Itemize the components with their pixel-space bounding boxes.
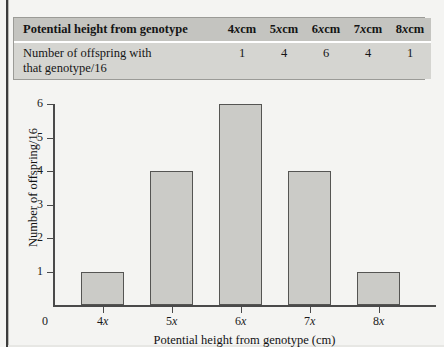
- y-tick-1: [47, 272, 53, 273]
- table-cell-4: 1: [389, 42, 431, 79]
- bar-6x: [219, 104, 262, 305]
- table-body-row: Number of offspring with that genotype/1…: [14, 42, 431, 79]
- col-suffix-4: cm: [408, 22, 424, 36]
- x-label-italic-1: x: [172, 314, 177, 328]
- figure-page: Potential height from genotype 4xcm 5xcm…: [0, 0, 444, 359]
- col-suffix-3: cm: [366, 22, 382, 36]
- genotype-data-table: Potential height from genotype 4xcm 5xcm…: [13, 17, 425, 80]
- table-header-col-4: 8xcm: [389, 18, 431, 42]
- table-cell-2: 6: [305, 42, 347, 79]
- y-tick-4: [47, 171, 53, 172]
- y-tick-label-4: 4: [17, 163, 43, 178]
- y-tick-label-6: 6: [17, 96, 43, 111]
- page-base-margin: [0, 347, 444, 359]
- x-label-italic-4: x: [379, 314, 384, 328]
- x-tick-8x: [379, 307, 380, 313]
- y-tick-label-1: 1: [17, 264, 43, 279]
- x-tick-4x: [103, 307, 104, 313]
- table-header-col-0: 4xcm: [221, 18, 263, 42]
- y-tick-5: [47, 138, 53, 139]
- col-suffix-2: cm: [324, 22, 340, 36]
- origin-label: 0: [35, 314, 55, 329]
- table-header-row: Potential height from genotype 4xcm 5xcm…: [14, 18, 431, 42]
- table-header-col-2: 6xcm: [305, 18, 347, 42]
- bar-8x: [357, 272, 400, 306]
- bar-4x: [81, 272, 124, 306]
- x-tick-5x: [172, 307, 173, 313]
- y-tick-6: [47, 104, 53, 105]
- page-left-rule-highlight: [8, 0, 9, 347]
- x-tick-6x: [241, 307, 242, 313]
- y-tick-2: [47, 238, 53, 239]
- x-tick-7x: [310, 307, 311, 313]
- x-label-italic-3: x: [310, 314, 315, 328]
- table: Potential height from genotype 4xcm 5xcm…: [14, 18, 431, 79]
- bar-5x: [150, 171, 193, 305]
- x-tick-label-7x: 7x: [285, 314, 335, 329]
- bar-chart: Number of offspring/16 123456 4x5x6x7x8x…: [13, 92, 425, 342]
- x-label-italic-2: x: [241, 314, 246, 328]
- y-axis-line: [53, 104, 55, 307]
- table-cell-1: 4: [263, 42, 305, 79]
- col-suffix-0: cm: [240, 22, 256, 36]
- x-tick-label-6x: 6x: [216, 314, 266, 329]
- x-axis-title: Potential height from genotype (cm): [53, 333, 436, 348]
- x-tick-label-8x: 8x: [354, 314, 404, 329]
- table-body-label-line2: that genotype/16: [23, 61, 107, 75]
- y-tick-label-2: 2: [17, 230, 43, 245]
- table-cell-3: 4: [347, 42, 389, 79]
- table-body-label: Number of offspring with that genotype/1…: [14, 42, 221, 79]
- y-tick-3: [47, 205, 53, 206]
- bar-7x: [288, 171, 331, 305]
- table-header-col-3: 7xcm: [347, 18, 389, 42]
- y-axis-title: Number of offspring/16: [26, 103, 41, 273]
- y-tick-label-5: 5: [17, 130, 43, 145]
- table-header-col-1: 5xcm: [263, 18, 305, 42]
- table-body-label-line1: Number of offspring with: [23, 46, 152, 60]
- x-label-italic-0: x: [103, 314, 108, 328]
- table-header-label: Potential height from genotype: [14, 18, 221, 42]
- y-tick-label-3: 3: [17, 197, 43, 212]
- table-cell-0: 1: [221, 42, 263, 79]
- x-tick-label-5x: 5x: [147, 314, 197, 329]
- x-tick-label-4x: 4x: [78, 314, 128, 329]
- col-suffix-1: cm: [282, 22, 298, 36]
